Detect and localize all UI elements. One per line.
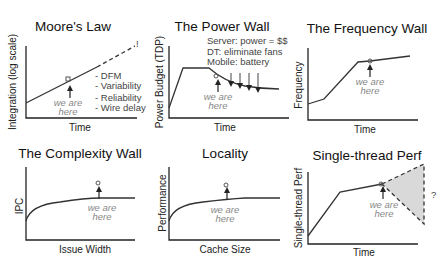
panel-title: The Complexity Wall [18, 146, 141, 161]
current-position-marker [96, 181, 100, 185]
note-item: Mobile: battery [207, 56, 270, 67]
perf-curve [308, 184, 382, 236]
x-axis-label: Time [214, 122, 236, 133]
note-item: - Variability [95, 80, 142, 91]
panel-locality: Locality Performance Cache Size we are h… [157, 146, 280, 255]
projected-trend-line [97, 46, 135, 67]
marker-label: here [92, 211, 111, 222]
current-position-marker [214, 74, 218, 78]
x-axis-label: Time [69, 122, 91, 133]
x-axis-label: Issue Width [59, 244, 111, 255]
y-axis-label: Single-thread Perf [293, 167, 304, 248]
panel-frequency-wall: The Frequency Wall Frequency Time we are… [293, 21, 427, 135]
panel-title: Moore's Law [35, 19, 111, 34]
y-axis-label: IPC [14, 198, 25, 215]
y-axis-label: Power Budget (TDP) [154, 36, 165, 128]
y-axis-label: Frequency [293, 61, 304, 108]
x-axis-label: Cache Size [199, 244, 251, 255]
y-axis-label: Integration (log scale) [7, 34, 18, 130]
exclamation-mark: ! [136, 38, 139, 49]
marker-label: here [215, 213, 234, 224]
six-walls-diagram: Moore's Law Integration (log scale) Time… [0, 0, 445, 267]
x-axis-label: Time [353, 247, 375, 258]
axes [26, 167, 135, 240]
panel-moores-law: Moore's Law Integration (log scale) Time… [7, 19, 146, 133]
panel-title: The Power Wall [175, 19, 270, 34]
y-axis-label: Performance [157, 174, 168, 232]
note-item: Server: power = $$ [207, 35, 288, 46]
ipc-curve [26, 198, 135, 221]
marker-label: here [374, 208, 393, 219]
panel-complexity-wall: The Complexity Wall IPC Issue Width we a… [14, 146, 142, 255]
note-item: - Wire delay [95, 102, 146, 113]
panel-title: Locality [202, 146, 248, 161]
x-axis-label: Time [354, 124, 376, 135]
current-position-marker [224, 183, 228, 187]
panel-single-thread-perf: Single-thread Perf Single-thread Perf Ti… [293, 148, 436, 258]
marker-label: here [58, 106, 77, 117]
marker-label: here [360, 85, 379, 96]
panel-power-wall: The Power Wall Power Budget (TDP) Time S… [154, 19, 289, 133]
panel-title: Single-thread Perf [313, 148, 422, 163]
question-mark: ? [431, 189, 436, 200]
marker-label: here [208, 100, 227, 111]
panel-title: The Frequency Wall [307, 21, 427, 36]
